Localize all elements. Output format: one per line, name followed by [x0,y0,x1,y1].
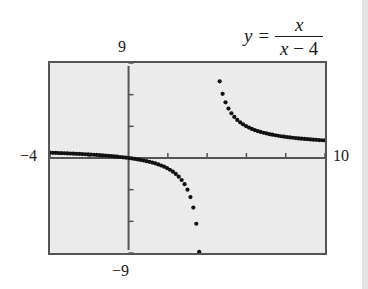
ymin-label: −9 [112,262,129,280]
equation-fraction: x x − 4 [275,15,323,58]
equation-equals: = [258,25,269,47]
data-point [223,100,227,104]
data-point [191,205,195,209]
denominator-rest: − 4 [289,38,319,59]
data-point [218,79,222,83]
graph-window [48,61,327,255]
fraction-numerator: x [295,15,303,36]
data-point [185,188,189,192]
ymax-label: 9 [118,38,126,56]
equation-label: y = x x − 4 [244,16,323,56]
xmin-label: −4 [20,147,37,165]
data-point [188,195,192,199]
equation-lhs: y [244,25,252,47]
page-edge-strip [362,0,368,289]
data-point [197,250,201,253]
fraction-denominator: x − 4 [280,37,318,58]
xmax-label: 10 [333,147,349,165]
data-point [182,182,186,186]
data-point [180,178,184,182]
denominator-variable: x [280,38,288,59]
data-point [194,222,198,226]
data-point [226,106,230,110]
graph-canvas [50,63,325,253]
data-point [221,92,225,96]
data-point [177,175,181,179]
data-point [229,111,233,115]
